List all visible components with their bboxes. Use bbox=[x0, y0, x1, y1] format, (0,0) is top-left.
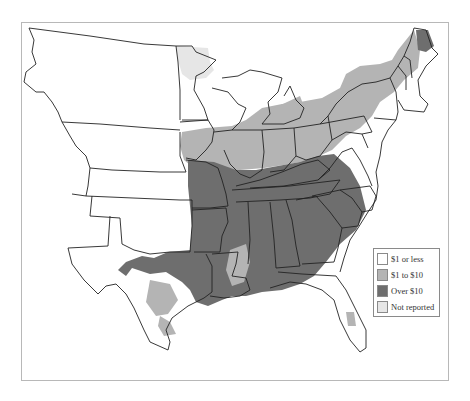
border-kansas bbox=[72, 168, 192, 200]
legend-swatch-mid bbox=[377, 269, 388, 281]
legend-item-low: $1 or less bbox=[377, 251, 437, 266]
region-maine-high bbox=[416, 30, 434, 52]
legend-item-high: Over $10 bbox=[377, 283, 437, 298]
border-indian-territory bbox=[90, 196, 192, 254]
legend-swatch-none bbox=[377, 301, 388, 313]
legend-swatch-low bbox=[377, 253, 388, 265]
legend-item-mid: $1 to $10 bbox=[377, 267, 437, 282]
legend-item-none: Not reported bbox=[377, 299, 437, 314]
legend-swatch-high bbox=[377, 285, 388, 297]
region-texas-mid bbox=[146, 280, 178, 316]
legend-label: Not reported bbox=[391, 302, 434, 312]
border-dakota-territory bbox=[24, 28, 180, 130]
legend-label: $1 to $10 bbox=[391, 270, 423, 280]
map-legend: $1 or less $1 to $10 Over $10 Not report… bbox=[373, 248, 440, 317]
choropleth-map bbox=[0, 0, 470, 401]
legend-label: Over $10 bbox=[391, 286, 423, 296]
region-florida-mid bbox=[346, 312, 356, 326]
legend-label: $1 or less bbox=[391, 254, 424, 264]
